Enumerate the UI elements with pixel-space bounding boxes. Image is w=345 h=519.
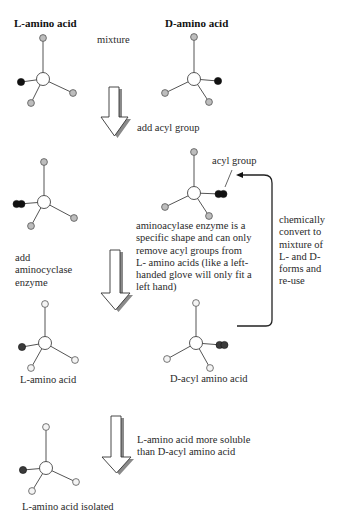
substituent-atom (164, 356, 171, 363)
substituent-atom (162, 204, 169, 211)
recycle-line: mixture of (279, 239, 325, 251)
substituent-atom (71, 215, 78, 222)
substituent-atom (41, 159, 48, 166)
solubility-line: L-amino acid more soluble (137, 434, 250, 446)
substituent-atom (73, 479, 80, 486)
substituent-atom (28, 223, 35, 230)
acyl-group-label: acyl group (212, 155, 257, 167)
add-acyl-group-label: add acyl group (137, 122, 199, 134)
recycle-arrowhead-icon (236, 172, 243, 178)
add-enzyme-line: enzyme (15, 277, 72, 289)
substituent-atom (191, 34, 198, 41)
add-enzyme-arrow (101, 250, 133, 312)
d-acyl-amino-acid-product-molecule (164, 300, 228, 372)
chiral-carbon-atom (37, 73, 50, 86)
mixture-label: mixture (97, 34, 130, 46)
recycle-line: L- and D- (279, 251, 325, 263)
d-amino-acid-title: D-amino acid (165, 17, 228, 29)
explanation-line: handed glove will only fit a (136, 269, 252, 281)
solubility-label: L-amino acid more soluble than D-acyl am… (137, 434, 250, 459)
substituent-atom (206, 99, 213, 106)
add-acyl-arrow (101, 87, 131, 138)
substituent-atom (162, 90, 169, 97)
add-enzyme-line: add (15, 252, 72, 264)
amino-group-atom (214, 77, 221, 84)
recycle-label: chemically convert to mixture of L- and … (279, 214, 325, 288)
add-enzyme-label: add aminocyclase enzyme (15, 252, 72, 289)
separation-arrow (102, 416, 134, 475)
substituent-atom (191, 149, 198, 156)
acyl-group-leader-line (225, 170, 232, 187)
l-isolated-label: L-amino acid isolated (22, 501, 114, 513)
l-amino-acid-product-label: L-amino acid (20, 374, 76, 386)
acyl-group-atom (13, 200, 20, 207)
substituent-atom (42, 301, 49, 308)
add-enzyme-line: aminocyclase (15, 264, 72, 276)
chiral-carbon-atom (188, 73, 201, 86)
substituent-atom (29, 488, 36, 495)
d-acyl-amino-acid-label: D-acyl amino acid (170, 373, 248, 385)
amino-group-atom (17, 78, 24, 85)
l-amino-acid-title: L-amino acid (14, 17, 77, 29)
explanation-line: L- amino acids (like a left- (136, 257, 252, 269)
amino-group-atom (19, 466, 26, 473)
chiral-carbon-atom (190, 337, 203, 350)
recycle-line: chemically (279, 214, 325, 226)
enzyme-explanation: aminoacylase enzyme is a specific shape … (136, 220, 252, 294)
recycle-line: convert to (279, 226, 325, 238)
amino-group-atom (18, 343, 25, 350)
substituent-atom (72, 357, 79, 364)
recycle-line: forms and (279, 263, 325, 275)
l-amino-acid-start-molecule (17, 35, 76, 107)
substituent-atom (28, 100, 35, 107)
substituent-atom (207, 365, 214, 372)
chiral-carbon-atom (39, 337, 52, 350)
substituent-atom (40, 35, 47, 42)
explanation-line: aminoacylase enzyme is a (136, 220, 252, 232)
chiral-carbon-atom (188, 187, 201, 200)
substituent-atom (206, 213, 213, 220)
substituent-atom (43, 424, 50, 431)
acyl-group-atom (221, 341, 228, 348)
process-arrows (101, 87, 134, 475)
acyl-group-atom (220, 190, 227, 197)
explanation-line: specific shape and can only (136, 232, 252, 244)
l-amino-acid-isolated-molecule (19, 424, 79, 495)
l-acyl-amino-acid-molecule (13, 159, 77, 230)
l-amino-acid-product-molecule (18, 301, 78, 372)
substituent-atom (70, 90, 77, 97)
chiral-carbon-atom (40, 462, 53, 475)
d-amino-acid-start-molecule (162, 34, 222, 106)
explanation-line: remove acyl groups from (136, 245, 252, 257)
explanation-line: left hand) (136, 281, 252, 293)
substituent-atom (193, 300, 200, 307)
recycle-line: re-use (279, 275, 325, 287)
solubility-line: than D-acyl amino acid (137, 446, 250, 458)
chiral-carbon-atom (38, 196, 51, 209)
substituent-atom (28, 365, 35, 372)
